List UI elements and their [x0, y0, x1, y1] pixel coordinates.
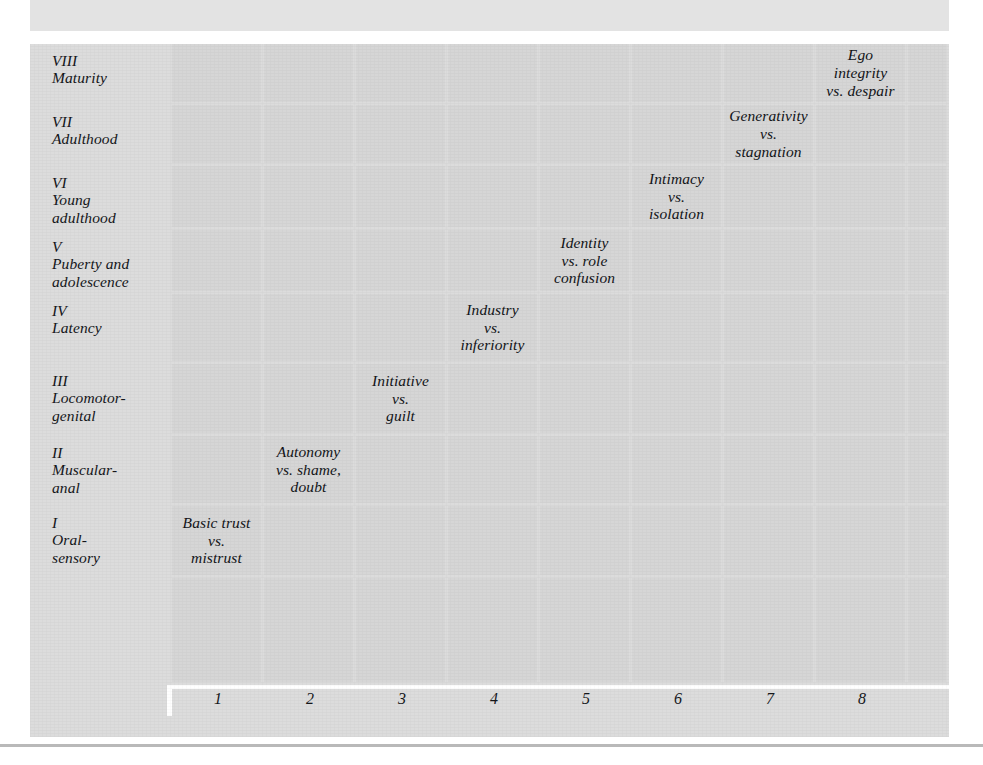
grid-cell	[908, 294, 946, 361]
grid-cell	[724, 506, 813, 575]
grid-cell	[632, 294, 721, 361]
grid-cell	[632, 364, 721, 433]
crisis-cell-text: Egointegrityvs. despair	[816, 44, 905, 102]
crisis-line: vs.	[760, 125, 777, 143]
row-stage-name: Muscular-anal	[52, 461, 172, 496]
crisis-line: vs.	[484, 319, 501, 337]
crisis-cell-text: Initiativevs.guilt	[356, 364, 445, 433]
grid-cell	[264, 44, 353, 102]
crisis-cell-text: Basic trustvs.mistrust	[172, 506, 261, 575]
grid-cell	[724, 364, 813, 433]
crisis-cell-text: Autonomyvs. shame,doubt	[264, 436, 353, 503]
x-axis-tick-3: 3	[356, 690, 448, 708]
row-numeral: VI	[52, 174, 172, 191]
top-text-band	[30, 0, 949, 31]
crisis-line: Ego	[848, 46, 873, 64]
grid-cell	[172, 364, 261, 433]
grid-cell	[356, 294, 445, 361]
grid-cell	[816, 166, 905, 227]
x-axis-tick-2: 2	[264, 690, 356, 708]
crisis-line: mistrust	[191, 549, 242, 567]
grid-cell	[448, 166, 537, 227]
grid-cell	[816, 230, 905, 291]
row-stage-name: Oral-sensory	[52, 531, 172, 566]
grid-cell	[540, 506, 629, 575]
grid-cell	[816, 294, 905, 361]
grid-cell	[908, 506, 946, 575]
grid-cell	[448, 105, 537, 163]
grid-cell	[448, 578, 537, 682]
crisis-line: vs. despair	[826, 82, 894, 100]
x-axis-tick-6: 6	[632, 690, 724, 708]
row-numeral: VII	[52, 113, 172, 130]
grid-cell	[172, 436, 261, 503]
page-bottom-edge	[0, 744, 983, 765]
x-axis-tick-1: 1	[172, 690, 264, 708]
grid-cell	[264, 294, 353, 361]
grid-cell	[264, 578, 353, 682]
row-label-column: VIIIMaturityVIIAdulthoodVIYoungadulthood…	[30, 44, 167, 682]
x-axis-labels: 12345678	[172, 690, 949, 716]
grid-cell	[632, 578, 721, 682]
crisis-cell-text: Generativityvs.stagnation	[724, 105, 813, 163]
row-numeral: VIII	[52, 52, 172, 69]
crisis-line: vs. role	[562, 252, 608, 270]
x-axis-tick-4: 4	[448, 690, 540, 708]
row-numeral: III	[52, 372, 172, 389]
grid-cell	[264, 105, 353, 163]
crisis-line: Intimacy	[649, 170, 704, 188]
matrix-grid: Egointegrityvs. despairGenerativityvs.st…	[172, 44, 949, 682]
grid-cell	[540, 436, 629, 503]
grid-cell	[908, 230, 946, 291]
x-axis-rule	[172, 685, 949, 689]
grid-cell	[356, 44, 445, 102]
crisis-cell-text: Identityvs. roleconfusion	[540, 230, 629, 291]
grid-cell	[540, 578, 629, 682]
row-stage-name: Youngadulthood	[52, 191, 172, 226]
crisis-line: Industry	[466, 301, 518, 319]
grid-cell	[724, 166, 813, 227]
row-stage-name: Maturity	[52, 69, 172, 86]
grid-cell	[540, 364, 629, 433]
row-label-iv: IVLatency	[52, 302, 172, 337]
x-axis-tick-7: 7	[724, 690, 816, 708]
grid-cell	[908, 436, 946, 503]
grid-cell	[172, 578, 261, 682]
row-label-viii: VIIIMaturity	[52, 52, 172, 87]
x-axis-tick-5: 5	[540, 690, 632, 708]
grid-cell	[264, 230, 353, 291]
crisis-line: vs. shame,	[276, 461, 341, 479]
grid-cell	[264, 506, 353, 575]
crisis-line: vs.	[208, 532, 225, 550]
grid-cell	[632, 105, 721, 163]
crisis-cell-text: Intimacyvs.isolation	[632, 166, 721, 227]
crisis-line: stagnation	[735, 143, 801, 161]
crisis-cell-text: Industryvs.inferiority	[448, 294, 537, 361]
crisis-line: isolation	[649, 205, 704, 223]
grid-cell	[448, 230, 537, 291]
row-label-vii: VIIAdulthood	[52, 113, 172, 148]
grid-cell	[908, 166, 946, 227]
figure-panel: VIIIMaturityVIIAdulthoodVIYoungadulthood…	[30, 44, 949, 737]
grid-cell	[908, 105, 946, 163]
grid-cell	[632, 44, 721, 102]
grid-cell	[724, 44, 813, 102]
crisis-line: vs.	[392, 390, 409, 408]
row-numeral: V	[52, 238, 172, 255]
row-numeral: IV	[52, 302, 172, 319]
row-label-ii: IIMuscular-anal	[52, 444, 172, 496]
page-right-margin	[973, 0, 983, 765]
grid-cell	[356, 506, 445, 575]
grid-cell	[632, 436, 721, 503]
grid-cell	[908, 364, 946, 433]
grid-cell	[540, 166, 629, 227]
row-label-iii: IIILocomotor-genital	[52, 372, 172, 424]
crisis-line: vs.	[668, 188, 685, 206]
crisis-line: Generativity	[729, 107, 808, 125]
grid-cell	[172, 105, 261, 163]
row-label-vi: VIYoungadulthood	[52, 174, 172, 226]
row-stage-name: Adulthood	[52, 130, 172, 147]
scanned-page: VIIIMaturityVIIAdulthoodVIYoungadulthood…	[0, 0, 983, 765]
grid-cell	[448, 506, 537, 575]
crisis-line: Identity	[560, 234, 608, 252]
